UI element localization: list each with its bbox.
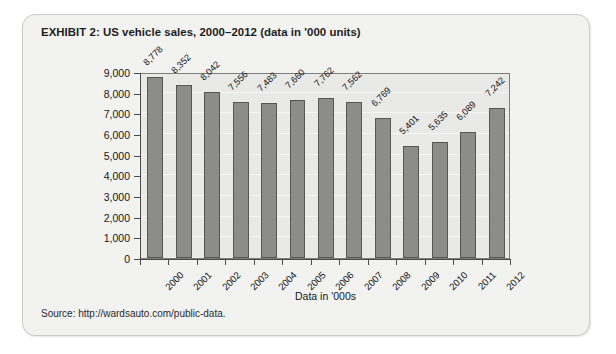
x-tick-mark — [225, 260, 226, 265]
bar-value-label: 8,778 — [141, 44, 164, 67]
x-tick-label: 2002 — [219, 269, 242, 292]
bar[interactable] — [318, 98, 334, 258]
bar[interactable] — [147, 77, 163, 258]
x-tick-mark — [453, 260, 454, 265]
y-tick-label: 1,000 — [104, 232, 130, 244]
x-tick-label: 2001 — [191, 269, 214, 292]
bar-value-label: 6,769 — [369, 85, 392, 108]
y-tick-mark — [134, 218, 140, 219]
bar[interactable] — [204, 92, 220, 258]
x-tick-mark — [311, 260, 312, 265]
bar-chart: 8,7788,3528,0427,5567,4837,6607,7627,562… — [96, 47, 566, 302]
bar[interactable] — [403, 146, 419, 258]
y-tick-label: 6,000 — [104, 129, 130, 141]
bar-slot: 7,483 — [255, 74, 283, 258]
y-tick-mark — [134, 94, 140, 95]
y-tick-label: 9,000 — [104, 67, 130, 79]
x-tick-label: 2008 — [390, 269, 413, 292]
bar-slot: 6,089 — [454, 74, 482, 258]
y-tick-mark — [134, 238, 140, 239]
x-tick-mark — [510, 260, 511, 265]
exhibit-title: EXHIBIT 2: US vehicle sales, 2000–2012 (… — [41, 26, 361, 38]
x-tick-label: 2000 — [162, 269, 185, 292]
bar[interactable] — [489, 108, 505, 258]
bar-value-label: 7,562 — [341, 69, 364, 92]
x-tick-mark — [396, 260, 397, 265]
y-axis-line — [140, 73, 141, 260]
bar-value-label: 7,762 — [312, 65, 335, 88]
bar[interactable] — [261, 103, 277, 258]
x-tick-mark — [482, 260, 483, 265]
x-axis-title: Data in '000s — [140, 290, 511, 302]
x-tick-mark — [282, 260, 283, 265]
y-tick-mark — [134, 197, 140, 198]
bar-slot: 8,352 — [169, 74, 197, 258]
bar[interactable] — [432, 142, 448, 258]
y-tick-label: 4,000 — [104, 170, 130, 182]
bar-value-label: 8,352 — [170, 53, 193, 76]
bar-value-label: 7,483 — [255, 71, 278, 94]
y-tick-mark — [134, 176, 140, 177]
x-axis-line — [140, 259, 511, 260]
x-tick-mark — [168, 260, 169, 265]
bar-slot: 7,242 — [483, 74, 511, 258]
x-tick-mark — [339, 260, 340, 265]
x-tick-label: 2006 — [333, 269, 356, 292]
bar-value-label: 7,556 — [227, 69, 250, 92]
y-tick-mark — [134, 73, 140, 74]
x-tick-mark — [254, 260, 255, 265]
x-tick-mark — [368, 260, 369, 265]
x-tick-label: 2012 — [504, 269, 527, 292]
bar-value-label: 6,089 — [454, 99, 477, 122]
bar-slot: 7,762 — [312, 74, 340, 258]
x-tick-label: 2004 — [276, 269, 299, 292]
bar-slot: 5,401 — [397, 74, 425, 258]
x-tick-label: 2003 — [248, 269, 271, 292]
bar[interactable] — [290, 100, 306, 258]
x-tick-label: 2010 — [447, 269, 470, 292]
x-tick-label: 2011 — [475, 269, 497, 291]
x-tick-mark — [140, 260, 141, 265]
bar[interactable] — [233, 102, 249, 258]
plot-area: 8,7788,3528,0427,5567,4837,6607,7627,562… — [140, 73, 510, 259]
exhibit-card: EXHIBIT 2: US vehicle sales, 2000–2012 (… — [22, 14, 590, 336]
bar-slot: 7,660 — [283, 74, 311, 258]
bars-layer: 8,7788,3528,0427,5567,4837,6607,7627,562… — [141, 74, 509, 258]
bar-slot: 6,769 — [369, 74, 397, 258]
y-tick-label: 0 — [124, 253, 130, 265]
bar-value-label: 5,635 — [426, 109, 449, 132]
bar[interactable] — [375, 118, 391, 258]
x-tick-mark — [425, 260, 426, 265]
x-tick-label: 2009 — [419, 269, 442, 292]
x-tick-label: 2007 — [362, 269, 385, 292]
bar[interactable] — [346, 102, 362, 258]
y-tick-mark — [134, 114, 140, 115]
source-note: Source: http://wardsauto.com/public-data… — [41, 308, 226, 319]
y-tick-label: 5,000 — [104, 150, 130, 162]
bar-value-label: 7,660 — [284, 67, 307, 90]
y-tick-label: 3,000 — [104, 191, 130, 203]
y-tick-mark — [134, 156, 140, 157]
bar[interactable] — [460, 132, 476, 258]
x-tick-mark — [197, 260, 198, 265]
bar-value-label: 8,042 — [198, 59, 221, 82]
bar-value-label: 7,242 — [483, 76, 506, 99]
x-tick-label: 2005 — [305, 269, 328, 292]
bar-slot: 7,556 — [226, 74, 254, 258]
bar[interactable] — [176, 85, 192, 258]
y-tick-label: 8,000 — [104, 88, 130, 100]
bar-slot: 7,562 — [340, 74, 368, 258]
bar-value-label: 5,401 — [398, 114, 421, 137]
y-tick-mark — [134, 135, 140, 136]
y-tick-label: 7,000 — [104, 108, 130, 120]
y-tick-label: 2,000 — [104, 212, 130, 224]
bar-slot: 8,778 — [141, 74, 169, 258]
bar-slot: 5,635 — [426, 74, 454, 258]
bar-slot: 8,042 — [198, 74, 226, 258]
